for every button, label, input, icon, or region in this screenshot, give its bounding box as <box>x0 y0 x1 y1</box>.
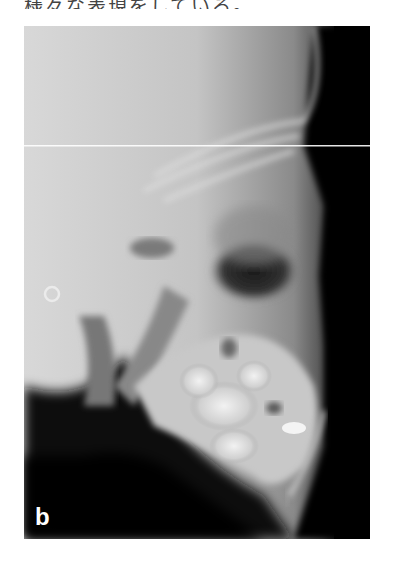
xray-figure: b <box>24 26 370 539</box>
cephalometric-xray-image <box>24 26 370 539</box>
figure-label: b <box>35 505 50 529</box>
top-text-clip: 様々な表現をしている。 <box>0 0 399 9</box>
body-text-line: 様々な表現をしている。 <box>24 0 254 5</box>
